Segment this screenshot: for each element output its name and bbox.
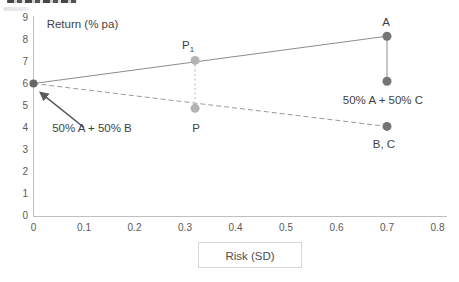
y-tick-label-0: 0 [22,210,28,221]
y-tick-label-6: 6 [22,78,28,89]
y-tick-label-3: 3 [22,144,28,155]
annotation-label-P: P [192,122,200,134]
x-tick-label-0.3: 0.3 [178,222,192,233]
cropped-text-fragment-below [3,7,29,11]
y-tick-label-2: 2 [22,166,28,177]
point-A [383,32,392,41]
point-P1 [191,56,200,65]
x-tick-label-0.7: 0.7 [380,222,394,233]
line-AB-to-A [34,36,388,83]
annotations: Return (% pa)AP1PB, C50% A + 50% C50% A … [47,16,423,151]
annotation-label-A: A [382,16,390,28]
x-axis-title: Risk (SD) [225,250,274,262]
point-P [191,104,200,113]
y-tick-label-1: 1 [22,188,28,199]
cropped-text-fragment-top [7,0,77,3]
point-50pctA-50pctC [383,77,392,86]
x-tick-label-0.2: 0.2 [128,222,142,233]
point-50pctA-50pctB [30,80,38,88]
x-tick-label-0.8: 0.8 [431,222,445,233]
x-tick-label-0.5: 0.5 [279,222,293,233]
risk-return-chart: 012345678900.10.20.30.40.50.60.70.8 Retu… [0,0,459,282]
x-tick-label-0.1: 0.1 [77,222,91,233]
series-lines [34,36,388,126]
annotation-label-AC: 50% A + 50% C [343,94,423,106]
axes [34,16,448,217]
annotation-label-B-C: B, C [373,138,395,150]
x-tick-label-0: 0 [31,222,37,233]
x-axis-title-box: Risk (SD) [199,243,302,268]
annotation-label-P1-subscript: 1 [190,45,194,54]
y-tick-label-5: 5 [22,100,28,111]
risk-return-figure: 012345678900.10.20.30.40.50.60.70.8 Retu… [0,0,459,282]
x-tick-label-0.4: 0.4 [229,222,243,233]
point-B-C [383,122,392,131]
y-tick-label-7: 7 [22,56,28,67]
line-AB-to-BC [34,84,388,127]
y-tick-label-9: 9 [22,12,28,23]
annotation-ylabel-inside: Return (% pa) [47,18,119,30]
x-tick-label-0.6: 0.6 [330,222,344,233]
y-tick-label-8: 8 [22,34,28,45]
y-tick-label-4: 4 [22,122,28,133]
annotation-label-P1: P1 [182,39,194,53]
annotation-label-AB: 50% A + 50% B [52,122,132,134]
data-points [30,32,392,131]
